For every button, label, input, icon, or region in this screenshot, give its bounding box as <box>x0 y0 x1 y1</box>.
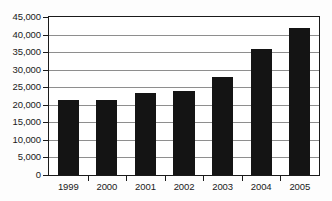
x-axis-tick-label: 2005 <box>280 181 319 192</box>
bar-slot <box>242 17 281 175</box>
x-axis-labels: 1999200020012002200320042005 <box>49 181 319 192</box>
bar <box>173 91 194 175</box>
x-axis-tick-label: 2003 <box>203 181 242 192</box>
bar <box>212 77 233 175</box>
y-axis-tick-label: 40,000 <box>13 30 41 40</box>
bar-series <box>49 17 319 175</box>
x-axis-tick-label: 2000 <box>88 181 127 192</box>
bar-slot <box>49 17 88 175</box>
y-axis-tick-label: 15,000 <box>13 118 41 128</box>
bar-slot <box>88 17 127 175</box>
bar <box>289 28 310 175</box>
bar-slot <box>203 17 242 175</box>
x-axis-tick-label: 2001 <box>126 181 165 192</box>
bar-slot <box>165 17 204 175</box>
x-axis-tick-label: 2002 <box>165 181 204 192</box>
bar <box>58 100 79 175</box>
y-axis-tick-label: 10,000 <box>13 135 41 145</box>
y-axis-tick-label: 25,000 <box>13 82 41 92</box>
y-axis-tick-label: 0 <box>36 170 41 180</box>
bar-slot <box>280 17 319 175</box>
bar <box>251 49 272 175</box>
bar <box>96 100 117 175</box>
bar <box>135 93 156 176</box>
x-axis-tick-label: 1999 <box>49 181 88 192</box>
bar-chart-figure: 05,00010,00015,00020,00025,00030,00035,0… <box>0 0 332 201</box>
y-axis-tick-label: 20,000 <box>13 100 41 110</box>
y-axis-tick-label: 35,000 <box>13 47 41 57</box>
x-axis-tick-label: 2004 <box>242 181 281 192</box>
y-axis-tick-label: 5,000 <box>18 153 41 163</box>
bar-slot <box>126 17 165 175</box>
y-axis-tick-label: 30,000 <box>13 65 41 75</box>
y-axis-tick-label: 45,000 <box>13 12 41 22</box>
